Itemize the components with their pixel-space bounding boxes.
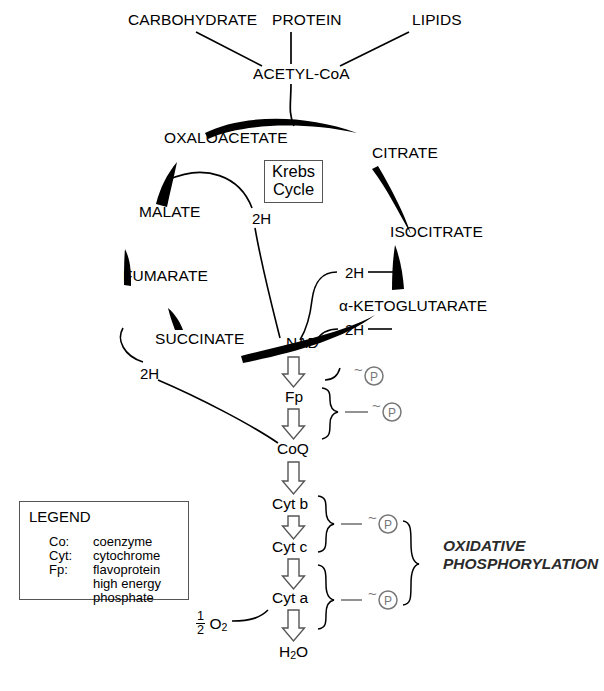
- etc-label-nad: NAD: [286, 335, 319, 351]
- brace-cyta: [318, 565, 334, 629]
- svg-text:~: ~: [372, 397, 381, 414]
- arrow-cytb-to-cytc: [283, 516, 305, 539]
- curve-oxygen-to-water: [232, 610, 268, 621]
- lipids-line: [340, 32, 409, 66]
- legend-title: LEGEND: [29, 508, 91, 525]
- legend-key-cyt: Cyt:: [49, 548, 93, 563]
- legend-value-cyt: cytochrome: [93, 548, 160, 563]
- curve-2h-to-nad-malate: [255, 228, 280, 338]
- svg-text:P: P: [384, 518, 392, 532]
- input-connector-lines: [196, 32, 409, 66]
- input-label-lipids: LIPIDS: [412, 12, 462, 28]
- krebs-cycle-box: Krebs Cycle: [264, 160, 323, 203]
- arrow-cytc-to-cyta: [283, 559, 305, 589]
- oxygen-label: 12 O2: [196, 610, 227, 637]
- svg-text:P: P: [388, 406, 396, 420]
- oxygen-subscript: 2: [221, 621, 227, 633]
- etc-label-fp: Fp: [285, 389, 303, 405]
- brace-oxidative-phosphorylation: [403, 521, 419, 605]
- arrow-coq-to-cytb: [283, 462, 305, 494]
- krebs-box-line-1: Krebs: [272, 163, 315, 181]
- diagram-page: ~ P ~ P ~ P ~ P ~ P: [0, 0, 604, 691]
- carbohydrate-line: [196, 32, 262, 66]
- fraction-numerator: 1: [196, 610, 205, 623]
- curve-2h-succinate-to-coq: [158, 380, 278, 443]
- phosphate-fp-coq: ~ P: [372, 397, 401, 421]
- intermediate-malate: MALATE: [139, 204, 200, 220]
- etc-label-cyt-c: Cyt c: [272, 539, 307, 555]
- legend-key-co: Co:: [49, 534, 93, 549]
- legend-value-phosphate-cont: phosphate: [93, 590, 154, 605]
- oxphos-line-2: PHOSPHORYLATION: [443, 555, 598, 573]
- oxidative-phosphorylation-label: OXIDATIVE PHOSPHORYLATION: [443, 537, 598, 574]
- brace-cytb-cytc: [318, 496, 334, 552]
- legend-box: LEGEND Co: coenzyme Cyt: cytochrome Fp: …: [19, 501, 189, 600]
- hydrogen-label-malate: 2H: [252, 211, 271, 226]
- brace-fp-coq: [322, 388, 338, 439]
- legend-value-co: coenzyme: [93, 534, 152, 549]
- acetyl-coa-label: ACETYL-CoA: [253, 66, 350, 82]
- svg-text:P: P: [370, 370, 378, 384]
- svg-text:~: ~: [368, 509, 377, 526]
- svg-text:P: P: [384, 594, 392, 608]
- hydrogen-label-succinate: 2H: [140, 366, 159, 381]
- oxygen-species: O: [209, 615, 221, 632]
- phosphate-nad-fp: ~ P: [354, 361, 383, 385]
- etc-label-cyt-a: Cyt a: [272, 590, 308, 606]
- intermediate-citrate: CITRATE: [372, 145, 438, 161]
- intermediate-succinate: SUCCINATE: [155, 331, 244, 347]
- intermediate-isocitrate: ISOCITRATE: [390, 224, 483, 240]
- curve-succinate-hook: [120, 328, 143, 362]
- hydrogen-label-ketoglutarate: 2H: [345, 322, 364, 337]
- krebs-cycle-ring: [124, 119, 411, 363]
- legend-value-fp: flavoprotein: [93, 562, 160, 577]
- oxphos-line-1: OXIDATIVE: [443, 537, 598, 555]
- arc-succinate-fumarate: [168, 308, 183, 330]
- intermediate-fumarate: FUMARATE: [123, 268, 208, 284]
- krebs-box-line-2: Cycle: [272, 181, 315, 199]
- water-subscript: 2: [290, 649, 296, 661]
- etc-label-water: H2O: [279, 644, 308, 661]
- brace-nad-fp: [325, 368, 340, 380]
- svg-text:~: ~: [354, 361, 363, 378]
- intermediate-alpha-ketoglutarate: α-KETOGLUTARATE: [339, 298, 487, 314]
- legend-key-fp: Fp:: [49, 562, 93, 577]
- oxygen-fraction: 12: [196, 610, 205, 637]
- arrow-nad-to-fp: [283, 357, 305, 387]
- etc-label-coq: CoQ: [277, 441, 309, 457]
- intermediate-oxaloacetate: OXALOACETATE: [164, 130, 288, 146]
- legend-value-phosphate: high energy: [93, 576, 161, 591]
- input-label-carbohydrate: CARBOHYDRATE: [128, 12, 257, 28]
- arrow-cyta-to-water: [283, 610, 305, 641]
- phosphate-cytb-cytc: ~ P: [368, 509, 397, 533]
- fraction-denominator: 2: [196, 623, 205, 637]
- high-energy-phosphate-symbols: ~ P ~ P ~ P ~ P: [354, 361, 401, 609]
- input-label-protein: PROTEIN: [272, 12, 342, 28]
- phosphate-connector-dashes: [341, 412, 368, 600]
- etc-label-cyt-b: Cyt b: [272, 496, 308, 512]
- hydrogen-label-isocitrate: 2H: [345, 265, 364, 280]
- arc-isocitrate-ketoglutarate: [392, 245, 404, 290]
- arc-malate-oxaloacetate: [156, 162, 177, 207]
- arrow-fp-to-coq: [283, 409, 305, 439]
- svg-text:~: ~: [368, 585, 377, 602]
- phosphate-cyta: ~ P: [368, 585, 397, 609]
